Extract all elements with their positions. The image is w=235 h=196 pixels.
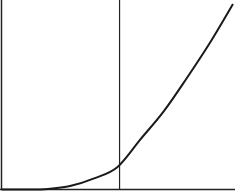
chart <box>0 0 235 196</box>
